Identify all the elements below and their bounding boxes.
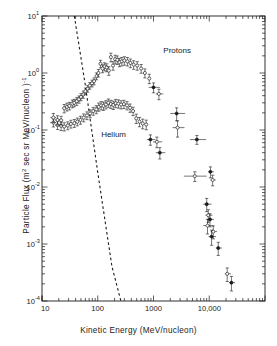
x-tick-label: 10 xyxy=(41,304,49,313)
y-tick-label: 10-3 xyxy=(27,238,40,249)
y-tick-label: 100 xyxy=(28,67,40,78)
x-tick-label: 10,000 xyxy=(198,304,221,313)
protons-label: Protons xyxy=(163,46,191,55)
x-axis-label: Kinetic Energy (MeV/nucleon) xyxy=(0,326,277,335)
protons-series xyxy=(50,53,216,245)
plot-canvas xyxy=(0,0,277,346)
x-tick-label: 1000 xyxy=(145,304,162,313)
helium-label: Helium xyxy=(101,130,126,139)
y-tick-label: 10-1 xyxy=(27,124,40,135)
helium-series xyxy=(50,99,235,291)
y-tick-label: 10-4 xyxy=(27,295,40,306)
y-axis-label: Particle Flux (m2 sec sr MeV/nucleon )-1 xyxy=(21,55,32,255)
axis-tick-marks xyxy=(42,16,265,301)
y-tick-label: 10-2 xyxy=(27,181,40,192)
y-tick-label: 101 xyxy=(28,10,40,21)
x-tick-label: 100 xyxy=(91,304,104,313)
axes-frame xyxy=(42,16,265,301)
particle-flux-figure: Particle Flux (m2 sec sr MeV/nucleon )-1… xyxy=(0,0,277,346)
